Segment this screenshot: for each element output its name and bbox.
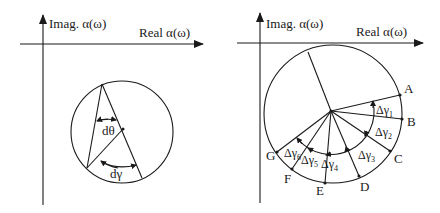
point-b-dot	[400, 117, 403, 120]
center-point	[122, 128, 125, 131]
diagram-canvas: Imag. α(ω) Real α(ω) dθ dγ Imag. α(ω) Re…	[0, 0, 440, 213]
point-c-label: C	[394, 151, 403, 166]
delta-gamma-2-label: Δγ2	[375, 125, 392, 141]
point-g-label: G	[266, 148, 275, 163]
point-g-dot	[275, 150, 278, 153]
delta-gamma-5-label: Δγ5	[301, 153, 318, 169]
right-panel: Imag. α(ω) Real α(ω)	[237, 13, 423, 203]
delta-gamma-6-label: Δγ6	[284, 146, 301, 162]
point-c-dot	[388, 149, 391, 152]
imag-axis-label: Imag. α(ω)	[49, 16, 106, 31]
delta-gamma-3-label: Δγ3	[358, 148, 375, 164]
point-d-dot	[357, 174, 360, 177]
real-axis-label: Real α(ω)	[139, 25, 190, 40]
point-b-label: B	[407, 114, 416, 129]
interior-point	[329, 109, 332, 112]
left-panel: Imag. α(ω) Real α(ω) dθ dγ	[20, 15, 203, 205]
radial-line-e	[325, 111, 331, 183]
point-a-label: A	[404, 81, 414, 96]
chord-left	[87, 84, 102, 168]
point-d-label: D	[360, 179, 369, 194]
radial-line-a	[331, 95, 400, 111]
point-a-dot	[398, 93, 401, 96]
point-e-label: E	[316, 183, 324, 198]
delta-gamma-1-label: Δγ1	[376, 103, 393, 119]
real-axis-label: Real α(ω)	[356, 24, 407, 39]
arc-arrow-5	[308, 148, 313, 151]
arc-arrow-6	[297, 138, 302, 144]
radial-line-top	[308, 52, 331, 111]
point-f-label: F	[284, 171, 291, 186]
delta-gamma-4-label: Δγ4	[321, 157, 338, 173]
dgamma-label: dγ	[110, 166, 123, 181]
dtheta-label: dθ	[102, 123, 115, 138]
dtheta-arrow-back	[97, 119, 108, 121]
imag-axis-label: Imag. α(ω)	[266, 16, 323, 31]
